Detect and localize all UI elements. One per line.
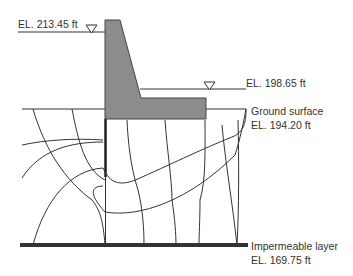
ground-elevation-label: EL. 194.20 ft xyxy=(251,119,311,131)
tailwater-elevation-label: EL. 198.65 ft xyxy=(246,77,306,89)
ground-surface-label: Ground surface xyxy=(251,105,323,117)
dam xyxy=(105,20,206,119)
headwater-elevation-label: EL. 213.45 ft xyxy=(18,18,78,30)
impermeable-elevation-label: EL. 169.75 ft xyxy=(251,254,311,266)
impermeable-layer-label: Impermeable layer xyxy=(251,240,338,252)
impermeable-layer xyxy=(20,243,248,247)
flow-net-diagram xyxy=(0,0,353,276)
equipotential-lines xyxy=(33,109,239,245)
